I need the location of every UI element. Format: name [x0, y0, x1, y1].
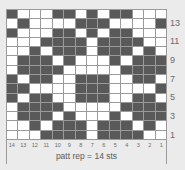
chart-cell-dark [121, 103, 131, 111]
chart-cell-dark [87, 19, 97, 27]
chart-cell-light [144, 131, 154, 139]
chart-cell-light [110, 75, 120, 83]
chart-cell-dark [41, 66, 51, 74]
chart-cell-dark [41, 56, 51, 64]
chart-cell-light [30, 19, 40, 27]
chart-cell-dark [144, 103, 154, 111]
chart-cell-dark [144, 56, 154, 64]
chart-cell-light [133, 47, 143, 55]
chart-cell-light [110, 19, 120, 27]
chart-cell-dark [76, 47, 86, 55]
chart-cell-light [53, 75, 63, 83]
chart-cell-dark [7, 29, 17, 37]
chart-cell-light [30, 131, 40, 139]
chart-cell-light [133, 84, 143, 92]
chart-cell-dark [41, 38, 51, 46]
chart-cell-light [110, 66, 120, 74]
chart-cell-dark [87, 10, 97, 18]
chart-cell-dark [87, 29, 97, 37]
chart-cell-dark [98, 84, 108, 92]
chart-cell-light [110, 94, 120, 102]
chart-cell-light [121, 19, 131, 27]
chart-cell-light [7, 121, 17, 129]
chart-cell-dark [76, 131, 86, 139]
chart-cell-dark [98, 75, 108, 83]
chart-cell-dark [18, 112, 28, 120]
chart-cell-dark [30, 94, 40, 102]
chart-cell-light [30, 10, 40, 18]
chart-cell-light [18, 94, 28, 102]
chart-cell-dark [87, 75, 97, 83]
chart-cell-dark [98, 19, 108, 27]
chart-cell-light [87, 131, 97, 139]
chart-cell-dark [53, 10, 63, 18]
chart-cell-light [121, 75, 131, 83]
chart-cell-light [18, 121, 28, 129]
row-label: 5 [170, 93, 175, 102]
chart-cell-light [64, 94, 74, 102]
chart-cell-light [98, 112, 108, 120]
chart-cell-light [144, 84, 154, 92]
chart-cell-light [53, 56, 63, 64]
chart-cell-dark [98, 131, 108, 139]
chart-cell-light [18, 38, 28, 46]
chart-cell-dark [18, 84, 28, 92]
chart-cell-dark [156, 112, 166, 120]
chart-cell-dark [30, 56, 40, 64]
chart-cell-dark [121, 29, 131, 37]
chart-cell-light [41, 84, 51, 92]
chart-cell-dark [41, 94, 51, 102]
chart-cell-light [76, 56, 86, 64]
chart-cell-light [144, 38, 154, 46]
chart-cell-light [30, 29, 40, 37]
chart-cell-light [156, 94, 166, 102]
chart-cell-dark [110, 56, 120, 64]
chart-cell-light [98, 29, 108, 37]
chart-cell-dark [41, 75, 51, 83]
chart-cell-light [7, 56, 17, 64]
chart-cell-dark [30, 47, 40, 55]
chart-cell-light [18, 29, 28, 37]
chart-cell-dark [133, 56, 143, 64]
chart-cell-dark [87, 84, 97, 92]
chart-cell-dark [110, 10, 120, 18]
chart-cell-dark [64, 121, 74, 129]
chart-cell-light [7, 112, 17, 120]
chart-cell-dark [53, 66, 63, 74]
chart-cell-light [76, 10, 86, 18]
chart-cell-light [64, 75, 74, 83]
chart-cell-light [87, 103, 97, 111]
chart-cell-light [144, 10, 154, 18]
chart-cell-light [156, 121, 166, 129]
chart-cell-light [87, 121, 97, 129]
chart-cell-dark [7, 10, 17, 18]
chart-cell-light [156, 75, 166, 83]
chart-cell-light [156, 29, 166, 37]
chart-cell-light [18, 10, 28, 18]
chart-cell-dark [30, 103, 40, 111]
chart-cell-dark [110, 121, 120, 129]
chart-cell-light [53, 84, 63, 92]
chart-cell-dark [133, 94, 143, 102]
chart-cell-light [64, 103, 74, 111]
chart-cell-light [144, 29, 154, 37]
chart-cell-dark [98, 94, 108, 102]
chart-cell-dark [64, 29, 74, 37]
chart-cell-dark [64, 38, 74, 46]
chart-cell-dark [121, 66, 131, 74]
chart-cell-light [121, 84, 131, 92]
chart-cell-dark [76, 19, 86, 27]
chart-cell-light [87, 47, 97, 55]
row-number-labels: 131197531 [170, 9, 185, 140]
chart-cell-dark [144, 112, 154, 120]
chart-cell-dark [121, 121, 131, 129]
row-label: 13 [170, 19, 180, 28]
chart-cell-dark [18, 56, 28, 64]
chart-cell-dark [76, 38, 86, 46]
chart-cell-dark [41, 112, 51, 120]
chart-cell-light [76, 29, 86, 37]
chart-cell-light [41, 19, 51, 27]
chart-cell-light [30, 84, 40, 92]
chart-cell-dark [133, 131, 143, 139]
chart-cell-dark [41, 131, 51, 139]
